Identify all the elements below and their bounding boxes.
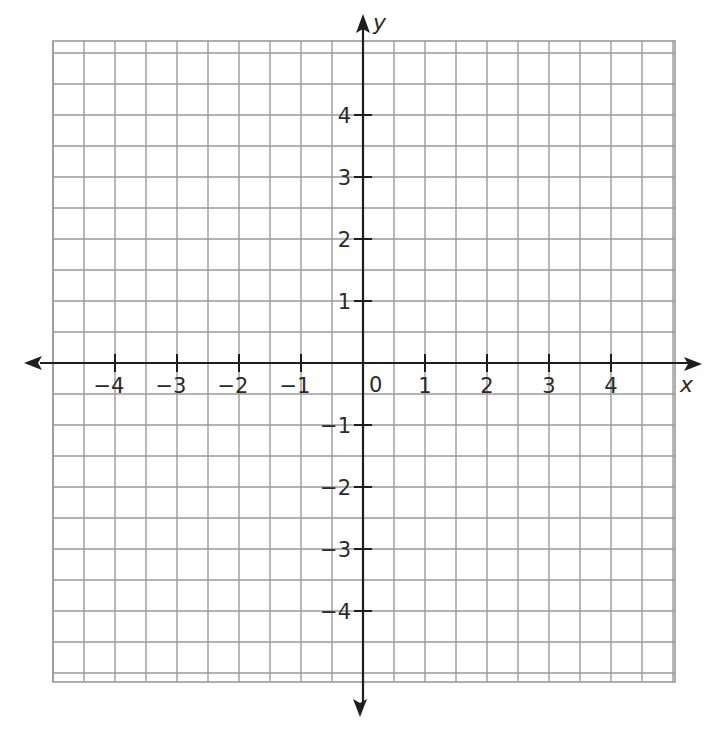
x-axis-label: x	[679, 372, 694, 397]
x-tick-label: −4	[94, 374, 125, 398]
y-tick-label: 4	[338, 104, 351, 128]
origin-label: 0	[369, 373, 382, 397]
y-tick-label: 1	[338, 290, 351, 314]
x-tick-label: 2	[480, 374, 493, 398]
x-tick-label: −3	[156, 374, 187, 398]
y-tick-label: −2	[320, 476, 351, 500]
y-axis-label: y	[372, 10, 387, 35]
y-tick-label: −3	[320, 538, 351, 562]
y-tick-label: 2	[338, 228, 351, 252]
y-axis-down-arrow-icon	[353, 699, 367, 717]
y-tick-label: −4	[320, 600, 351, 624]
x-tick-label: −2	[218, 374, 249, 398]
x-tick-label: 1	[418, 374, 431, 398]
x-tick-label: 4	[604, 374, 617, 398]
x-axis-left-arrow-icon	[24, 356, 42, 370]
y-tick-label: 3	[338, 166, 351, 190]
y-tick-label: −1	[320, 414, 351, 438]
x-tick-label: −1	[280, 374, 311, 398]
x-tick-label: 3	[542, 374, 555, 398]
coordinate-plane: −4−3−2−11234−4−3−2−11234 x y 0	[0, 0, 725, 746]
